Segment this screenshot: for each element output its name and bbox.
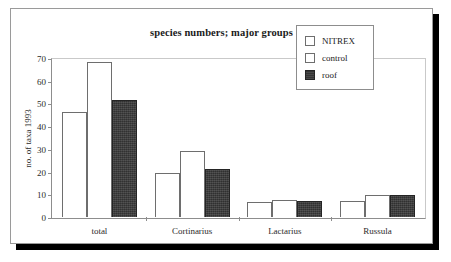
legend-item-nitrex: NITREX [305, 36, 366, 46]
x-axis-label-russula: Russula [331, 226, 424, 236]
legend-label-roof: roof [322, 70, 337, 80]
y-axis-tick: 30 [37, 145, 52, 155]
bar-nitrex-lactarius [247, 202, 272, 217]
legend-label-control: control [322, 53, 348, 63]
x-axis-tick [239, 217, 240, 221]
x-axis-label-lactarius: Lactarius [239, 226, 332, 236]
bar-group: total [53, 60, 146, 217]
x-axis-label-total: total [53, 226, 146, 236]
y-axis-tick: 70 [37, 54, 52, 64]
legend-swatch-control [305, 53, 315, 63]
y-axis-tick: 20 [37, 168, 52, 178]
y-axis-tick: 10 [37, 190, 52, 200]
legend-label-nitrex: NITREX [322, 36, 355, 46]
bar-control-total [87, 62, 112, 217]
legend-item-control: control [305, 53, 366, 63]
x-axis-tick [146, 217, 147, 221]
bar-nitrex-cortinarius [155, 173, 180, 217]
bar-group: Cortinarius [146, 60, 239, 217]
legend-item-roof: roof [305, 70, 366, 80]
y-axis-tick: 0 [42, 213, 53, 223]
y-axis-tick: 40 [37, 122, 52, 132]
chart-panel: species numbers; major groups no. of tax… [10, 8, 433, 244]
bar-control-cortinarius [180, 151, 205, 217]
y-axis-tick: 50 [37, 99, 52, 109]
bar-roof-lactarius [297, 201, 322, 217]
bar-nitrex-total [62, 112, 87, 217]
y-axis-label: no. of taxa 1993 [23, 58, 37, 219]
legend-swatch-nitrex [305, 36, 315, 46]
legend-swatch-roof [305, 70, 315, 80]
bar-roof-russula [390, 195, 415, 217]
chart-legend: NITREXcontrolroof [296, 25, 374, 90]
x-axis-label-cortinarius: Cortinarius [146, 226, 239, 236]
bar-control-russula [365, 195, 390, 217]
bar-roof-total [112, 100, 137, 217]
bar-nitrex-russula [340, 201, 365, 217]
y-axis-tick: 60 [37, 77, 52, 87]
x-axis-tick [331, 217, 332, 221]
bar-control-lactarius [272, 200, 297, 217]
bar-roof-cortinarius [205, 169, 230, 217]
